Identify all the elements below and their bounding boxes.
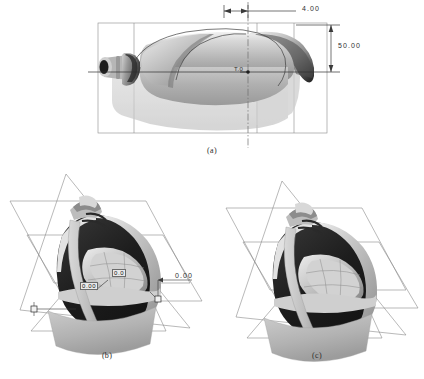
dimension-label-4-00: 4.00 [302, 5, 320, 12]
panel-c: (c) [212, 168, 424, 379]
dimension-label-50-00: 50.00 [338, 42, 361, 49]
panel-a-drawing [0, 0, 424, 165]
dimension-4-00 [224, 5, 296, 18]
dimension-label-b-right: 0.00 [175, 272, 193, 279]
caption-panel-a: (a) [192, 146, 232, 155]
dimension-label-b-mid: 0.0 [112, 269, 126, 277]
caption-panel-b: (b) [87, 351, 127, 360]
caption-panel-c: (c) [297, 351, 337, 360]
panel-b: 0.00 0.0 0.00 (b) [0, 168, 212, 379]
panel-c-drawing [212, 168, 424, 379]
dimension-label-centre-t: T.0 [234, 66, 243, 72]
panel-a: 4.00 50.00 T.0 (a) [0, 0, 424, 165]
figure-root: 4.00 50.00 T.0 (a) [0, 0, 424, 379]
dimension-label-b-left: 0.00 [80, 282, 98, 290]
